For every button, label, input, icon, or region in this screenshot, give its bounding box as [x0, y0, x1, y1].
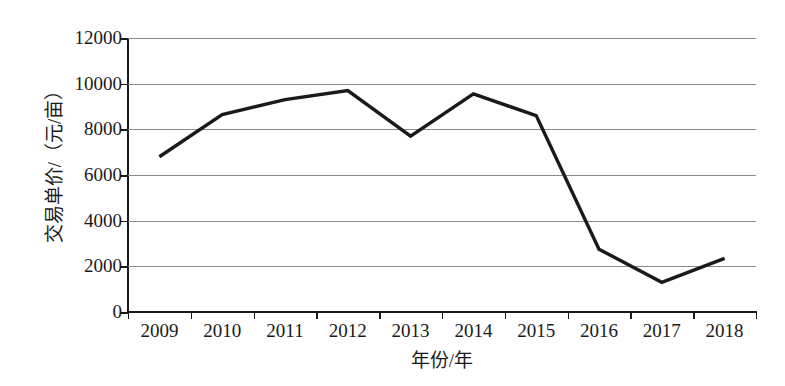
y-tick-label-8000: 8000	[42, 119, 122, 138]
y-tick-mark-6000	[120, 175, 128, 177]
y-tick-label-0: 0	[42, 302, 122, 321]
x-tick-label-2014: 2014	[438, 320, 508, 342]
x-tick-mark-4	[379, 312, 380, 319]
x-tick-label-2013: 2013	[376, 320, 446, 342]
x-tick-mark-9	[693, 312, 694, 319]
x-tick-mark-2	[254, 312, 255, 319]
y-tick-mark-2000	[120, 266, 128, 268]
x-tick-mark-1	[191, 312, 192, 319]
y-tick-label-4000: 4000	[42, 211, 122, 230]
x-tick-mark-7	[568, 312, 569, 319]
x-tick-mark-10	[756, 312, 757, 319]
y-tick-mark-10000	[120, 84, 128, 86]
y-tick-mark-0	[120, 312, 128, 314]
x-tick-mark-3	[316, 312, 317, 319]
y-tick-mark-4000	[120, 221, 128, 223]
x-tick-label-2012: 2012	[313, 320, 383, 342]
y-tick-mark-8000	[120, 129, 128, 131]
x-tick-mark-6	[505, 312, 506, 319]
x-tick-label-2015: 2015	[501, 320, 571, 342]
data-series-svg	[128, 38, 756, 312]
y-tick-label-6000: 6000	[42, 165, 122, 184]
y-tick-label-12000: 12000	[42, 28, 122, 47]
x-tick-mark-8	[630, 312, 631, 319]
y-tick-label-10000: 10000	[42, 74, 122, 93]
line-chart: 交易单价/（元/亩） 020004000600080001000012000 2…	[0, 0, 785, 386]
x-tick-label-2010: 2010	[187, 320, 257, 342]
y-tick-mark-12000	[120, 38, 128, 40]
x-tick-label-2018: 2018	[690, 320, 760, 342]
x-tick-label-2016: 2016	[564, 320, 634, 342]
x-tick-label-2009: 2009	[124, 320, 194, 342]
x-tick-mark-0	[128, 312, 129, 319]
y-tick-label-2000: 2000	[42, 256, 122, 275]
series-line-交易单价	[159, 91, 724, 283]
x-axis-title: 年份/年	[128, 345, 756, 372]
x-tick-label-2011: 2011	[250, 320, 320, 342]
x-tick-mark-5	[442, 312, 443, 319]
x-tick-label-2017: 2017	[627, 320, 697, 342]
plot-area	[128, 38, 756, 312]
